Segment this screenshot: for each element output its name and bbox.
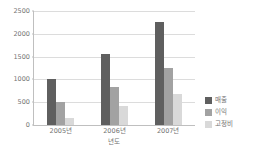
y-tick-label-2500: 2500: [13, 8, 30, 15]
bar-group-2006: 2006년: [88, 11, 142, 125]
legend: 매출 이익 고정비: [205, 97, 233, 128]
x-category-label-2007: 2007년: [157, 128, 180, 135]
legend-item-maechul[interactable]: 매출: [205, 97, 233, 104]
bar-maechul-2005[interactable]: [47, 79, 56, 125]
bar-maechul-2006[interactable]: [101, 54, 110, 125]
plot-area: 2500 2000 1500 1000 500 0: [33, 11, 195, 126]
bar-iik-2007[interactable]: [164, 68, 173, 125]
bar-gojeongbi-2007[interactable]: [173, 94, 182, 125]
x-axis-title: 년도: [33, 139, 195, 146]
y-tick-label-500: 500: [18, 99, 30, 106]
legend-swatch-icon-iik: [205, 109, 212, 116]
bar-gojeongbi-2006[interactable]: [119, 106, 128, 125]
bar-iik-2005[interactable]: [56, 102, 65, 125]
bars-layer: 2005년 2006년 2007년: [34, 11, 195, 125]
y-tick-label-2000: 2000: [13, 31, 30, 38]
x-category-label-2005: 2005년: [50, 128, 73, 135]
bar-group-2005: 2005년: [34, 11, 88, 125]
legend-item-gojeongbi[interactable]: 고정비: [205, 121, 233, 128]
y-tick-label-1500: 1500: [13, 53, 30, 60]
bar-group-2007: 2007년: [141, 11, 195, 125]
legend-label-gojeongbi: 고정비: [215, 121, 233, 128]
y-tick-label-0: 0: [26, 122, 30, 129]
bar-maechul-2007[interactable]: [155, 22, 164, 126]
legend-label-maechul: 매출: [215, 97, 227, 104]
legend-swatch-icon-gojeongbi: [205, 121, 212, 128]
x-category-label-2006: 2006년: [103, 128, 126, 135]
legend-item-iik[interactable]: 이익: [205, 109, 233, 116]
legend-swatch-icon-maechul: [205, 97, 212, 104]
gridline-0: 0: [34, 125, 195, 126]
bar-iik-2006[interactable]: [110, 87, 119, 125]
bar-gojeongbi-2005[interactable]: [65, 118, 74, 125]
y-tick-label-1000: 1000: [13, 76, 30, 83]
legend-label-iik: 이익: [215, 109, 227, 116]
bar-chart: 2500 2000 1500 1000 500 0: [0, 0, 257, 154]
